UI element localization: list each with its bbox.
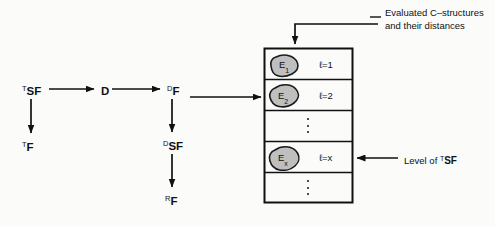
node-label-d-sf: DSF [163, 139, 183, 152]
dot [307, 125, 309, 127]
blob-label-x: Ex [278, 153, 288, 165]
dot [307, 131, 309, 133]
annotation-line-2: and their distances [385, 20, 484, 33]
blob-subscript-x: x [284, 160, 288, 167]
node-sup-t-f: T [22, 140, 27, 149]
dot [307, 187, 309, 189]
cell-level-x: ℓ=x [319, 153, 332, 163]
node-label-r-f: RF [165, 194, 177, 207]
table-row-dots-upper [307, 118, 309, 133]
dot [307, 193, 309, 195]
node-base-d-sf: SF [168, 140, 183, 152]
node-label-d-f: DF [167, 84, 179, 97]
annotation-level-of-tsf: Level of TSF [404, 152, 457, 168]
cell-level-2: ℓ=2 [319, 91, 333, 101]
node-label-t-f: TF [22, 140, 34, 153]
blob-label-2: E2 [278, 91, 288, 103]
node-base-d-f: F [172, 85, 179, 97]
annotation-evaluated-structures: Evaluated C–structures and their distanc… [385, 7, 484, 32]
node-sup-r-f: R [165, 194, 170, 203]
node-base-r-f: F [170, 195, 177, 207]
blob-subscript-2: 2 [284, 98, 288, 105]
node-label-t-sf: TSF [22, 84, 41, 97]
level-annotation-sup: T [440, 155, 444, 162]
node-base-t-sf: SF [27, 85, 42, 97]
dot [307, 118, 309, 120]
level-annotation-base: SF [444, 155, 457, 166]
level-annotation-prefix: Level of [404, 155, 440, 166]
node-base-t-f: F [27, 141, 34, 153]
node-sup-t-sf: T [22, 84, 27, 93]
table-row-dots-lower [307, 180, 309, 195]
diagram-canvas: TSF D DF TF DSF RF E1 E2 Ex ℓ=1 ℓ=2 ℓ=x … [0, 0, 495, 227]
node-label-d: D [101, 84, 109, 97]
diagram-vector-layer [0, 0, 495, 227]
dot [307, 180, 309, 182]
blob-subscript-1: 1 [285, 67, 289, 74]
blob-label-1: E1 [279, 60, 289, 72]
arrow-annotation-to-table [295, 24, 378, 44]
node-sup-d-sf: D [163, 139, 168, 148]
cell-level-1: ℓ=1 [319, 60, 333, 70]
node-sup-d-f: D [167, 84, 172, 93]
node-base-d: D [101, 85, 109, 97]
annotation-line-1: Evaluated C–structures [385, 7, 484, 20]
